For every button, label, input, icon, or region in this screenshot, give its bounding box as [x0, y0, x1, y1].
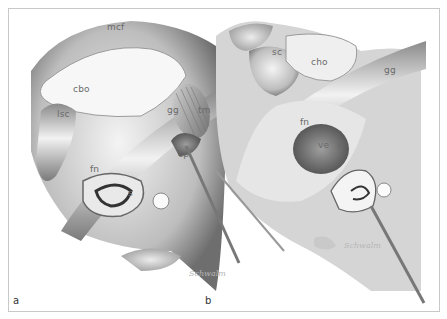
- panel-label-a: a: [13, 295, 19, 306]
- figure-frame: mcf cbo lsc gg tm cp fn s Schwalm a sc c…: [8, 8, 440, 312]
- label-ve: ve: [318, 140, 329, 150]
- label-tm: tm: [198, 105, 211, 115]
- signature-b: Schwalm: [344, 241, 381, 250]
- signature-a: Schwalm: [189, 269, 226, 278]
- label-cp: cp: [178, 149, 189, 159]
- label-gg-b: gg: [384, 65, 396, 75]
- label-s-b: s: [337, 140, 342, 150]
- label-sc: sc: [272, 47, 282, 57]
- label-mcf: mcf: [107, 22, 124, 32]
- label-gg-a: gg: [167, 105, 179, 115]
- label-s-a: s: [128, 188, 133, 198]
- label-fn-a: fn: [90, 164, 99, 174]
- panel-label-b: b: [205, 295, 211, 306]
- label-cho: cho: [311, 57, 328, 67]
- panel-a-drawing: [31, 21, 239, 291]
- anatomical-illustration: [9, 9, 439, 311]
- label-cbo: cbo: [73, 84, 90, 94]
- label-fn-b: fn: [300, 117, 309, 127]
- label-lsc: lsc: [57, 109, 70, 119]
